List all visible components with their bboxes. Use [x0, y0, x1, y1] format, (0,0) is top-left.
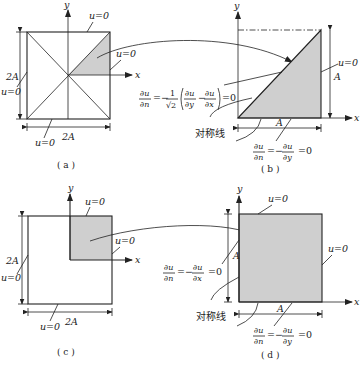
leader-line [110, 60, 121, 70]
equals-sign: = [153, 92, 161, 103]
fraction-denominator: ∂n [140, 100, 149, 109]
equals-zero: =0 [298, 329, 312, 340]
leader-line [236, 119, 261, 141]
boundary-label-bottom: u=0 [40, 321, 60, 332]
fraction-numerator: ∂u [205, 89, 214, 98]
fraction-numerator: 1 [170, 89, 175, 98]
symmetry-line-label: 对称线 [195, 127, 225, 139]
y-axis-label: y [236, 183, 243, 194]
fraction-numerator: ∂u [140, 89, 149, 98]
equals-minus: =− [177, 266, 193, 277]
caption-d: ( d ) [261, 350, 280, 360]
x-axis-label: x [354, 296, 360, 307]
y-axis-label: y [233, 0, 240, 11]
dimension-label-vertical: A [333, 71, 341, 82]
equation-bottom: ∂u ∂n =− ∂u ∂y =0 [253, 326, 312, 346]
fraction-denominator: ∂n [254, 153, 263, 162]
leader-line [237, 303, 258, 326]
fraction-numerator: ∂u [254, 142, 263, 151]
equation-diagonal: ∂u ∂n = − 1 √2 ∂u ∂y − ∂u ∂x =0 [139, 88, 236, 110]
dimension-label-horizontal: 2A [61, 131, 75, 142]
fraction-numerator: ∂u [283, 142, 292, 151]
symmetry-line-label: 对称线 [196, 310, 226, 322]
dimension-label-horizontal: A [276, 303, 284, 314]
leader-line [87, 22, 93, 32]
fraction-numerator: ∂u [193, 263, 202, 272]
boundary-label-right: u=0 [115, 235, 135, 246]
leader-line [258, 205, 272, 214]
dimension-label-horizontal: A [275, 117, 283, 128]
fraction-denominator: ∂x [193, 274, 202, 283]
fraction-numerator: ∂u [254, 326, 263, 335]
x-axis-label: x [135, 69, 141, 80]
boundary-label-top: u=0 [89, 10, 109, 21]
panel-a: y x u=0 u=0 2A u=0 2A u=0 ( a ) [1, 0, 141, 170]
leader-line [44, 119, 52, 138]
boundary-label-bottom: u=0 [35, 137, 55, 148]
boundary-label-left: u=0 [1, 272, 21, 283]
dimension-label-vertical: A [232, 250, 240, 261]
boundary-label-top: u=0 [268, 193, 288, 204]
caption-b: ( b ) [261, 164, 280, 174]
equals-minus: =− [267, 329, 283, 340]
shaded-region [239, 214, 322, 302]
panel-d: y x u=0 u=0 A ∂u ∂n =− ∂u ∂x =0 对称线 A [163, 183, 360, 360]
x-axis-label: x [135, 254, 141, 265]
fraction-denominator: ∂y [283, 153, 292, 162]
caption-c: ( c ) [57, 347, 75, 357]
y-axis-label: y [67, 182, 74, 193]
fraction-denominator: √2 [166, 101, 176, 110]
fraction-numerator: ∂u [283, 326, 292, 335]
fraction-denominator: ∂n [254, 337, 263, 346]
equals-zero: =0 [298, 145, 312, 156]
dimension-label-horizontal: 2A [64, 316, 78, 327]
panel-b: y x A u=0 A ∂u ∂n = − 1 √2 ∂u ∂y − ∂u [139, 0, 360, 174]
boundary-label-right: u=0 [338, 57, 358, 68]
dimension-label-vertical: 2A [5, 71, 19, 82]
fraction-numerator: ∂u [185, 89, 194, 98]
dimension-label-vertical: 2A [5, 255, 19, 266]
fraction-denominator: ∂y [283, 337, 292, 346]
equals-zero: =0 [208, 266, 222, 277]
fraction-denominator: ∂y [185, 100, 194, 109]
boundary-label-right: u=0 [328, 243, 348, 254]
leader-line [211, 277, 239, 300]
leader-line [86, 207, 90, 216]
caption-a: ( a ) [57, 160, 75, 170]
boundary-label-right: u=0 [116, 48, 136, 59]
left-paren [181, 88, 183, 110]
equals-minus: =− [267, 145, 283, 156]
equals-zero: =0 [222, 92, 236, 103]
leader-line [322, 255, 332, 265]
equation-left: ∂u ∂n =− ∂u ∂x =0 [163, 263, 222, 283]
boundary-label-left: u=0 [1, 86, 21, 97]
equation-bottom: ∂u ∂n =− ∂u ∂y =0 [253, 142, 312, 162]
panel-c: y x u=0 u=0 2A u=0 2A u=0 ( c ) [1, 182, 141, 357]
x-axis-label: x [354, 112, 360, 123]
boundary-label-top: u=0 [85, 196, 105, 207]
leader-line [50, 304, 58, 321]
fraction-denominator: ∂n [164, 274, 173, 283]
right-paren [218, 88, 220, 110]
fraction-numerator: ∂u [164, 263, 173, 272]
fraction-denominator: ∂x [205, 100, 214, 109]
leader-line [112, 247, 120, 254]
symmetry-diagram: y x u=0 u=0 2A u=0 2A u=0 ( a ) y x A [0, 0, 361, 368]
shaded-region [70, 216, 112, 260]
y-axis-label: y [63, 0, 70, 10]
